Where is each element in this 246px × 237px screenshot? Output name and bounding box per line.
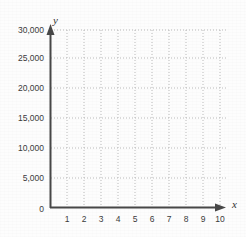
x-tick-label-4: 4: [116, 214, 121, 224]
y-tick-label-30000: 30,000: [18, 25, 44, 35]
x-tick-label-8: 8: [184, 214, 189, 224]
y-tick-labels: 30,000 25,000 20,000 15,000 10,000 5,000…: [18, 25, 44, 214]
x-tick-label-6: 6: [150, 214, 155, 224]
y-axis: [47, 24, 55, 208]
x-tick-label-1: 1: [65, 214, 70, 224]
x-tick-label-3: 3: [99, 214, 104, 224]
x-tick-label-9: 9: [201, 214, 206, 224]
x-tick-labels: 1 2 3 4 5 6 7 8 9 10: [65, 214, 225, 224]
vertical-gridlines: [67, 30, 220, 207]
coordinate-grid-chart: 30,000 25,000 20,000 15,000 10,000 5,000…: [0, 0, 246, 237]
x-tick-label-7: 7: [167, 214, 172, 224]
x-axis: [50, 204, 226, 212]
y-tick-label-25000: 25,000: [18, 53, 44, 63]
y-tick-label-5000: 5,000: [23, 173, 45, 183]
x-tick-label-10: 10: [215, 214, 225, 224]
y-tick-label-10000: 10,000: [18, 143, 44, 153]
y-tick-label-0: 0: [39, 204, 44, 214]
x-tick-label-2: 2: [82, 214, 87, 224]
y-tick-label-20000: 20,000: [18, 83, 44, 93]
y-tick-label-15000: 15,000: [18, 113, 44, 123]
x-axis-label: x: [231, 198, 237, 210]
graph-screenshot: 30,000 25,000 20,000 15,000 10,000 5,000…: [0, 0, 246, 237]
y-axis-label: y: [52, 14, 58, 26]
horizontal-gridlines: [51, 30, 228, 178]
x-tick-label-5: 5: [133, 214, 138, 224]
